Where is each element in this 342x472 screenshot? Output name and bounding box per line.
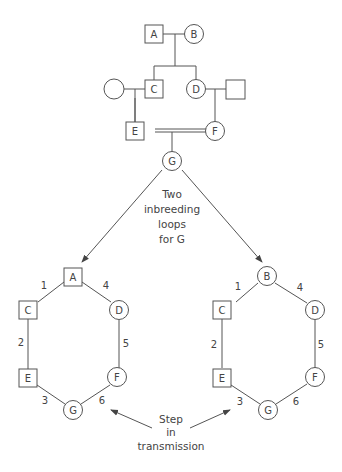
individual-c: C bbox=[145, 80, 163, 98]
svg-text:loops: loops bbox=[158, 218, 186, 230]
arrow-to-right-loop bbox=[182, 170, 262, 262]
svg-text:A: A bbox=[151, 29, 158, 40]
left-step-2: 2 bbox=[18, 337, 24, 348]
right-step-5: 5 bbox=[318, 339, 324, 350]
svg-text:D: D bbox=[115, 305, 123, 316]
left-node-g: G bbox=[64, 401, 83, 420]
svg-text:E: E bbox=[219, 373, 225, 384]
svg-text:E: E bbox=[25, 373, 31, 384]
right-node-f: F bbox=[306, 368, 325, 387]
pedigree-diagram: A B C D E F G bbox=[0, 0, 342, 472]
left-step-6: 6 bbox=[99, 395, 105, 406]
svg-text:F: F bbox=[114, 372, 120, 383]
right-step-4: 4 bbox=[297, 282, 303, 293]
individual-d-spouse bbox=[226, 80, 245, 99]
right-step-2: 2 bbox=[211, 339, 217, 350]
individual-b: B bbox=[185, 25, 204, 44]
svg-text:F: F bbox=[212, 126, 218, 137]
svg-text:inbreeding: inbreeding bbox=[144, 203, 200, 215]
left-node-f: F bbox=[108, 368, 127, 387]
left-step-1: 1 bbox=[41, 280, 47, 291]
arrow-to-left-loop bbox=[82, 170, 162, 262]
loop-right: B C D E F G 1 2 3 4 5 6 bbox=[211, 267, 325, 420]
svg-text:D: D bbox=[192, 84, 200, 95]
individual-a: A bbox=[145, 25, 163, 43]
left-step-3: 3 bbox=[42, 395, 48, 406]
svg-text:B: B bbox=[264, 271, 271, 282]
right-step-1: 1 bbox=[235, 281, 241, 292]
right-step-6: 6 bbox=[293, 396, 299, 407]
arrow-step-right bbox=[190, 410, 230, 428]
svg-text:transmission: transmission bbox=[137, 440, 204, 452]
svg-text:G: G bbox=[168, 156, 176, 167]
svg-text:F: F bbox=[312, 372, 318, 383]
svg-text:Step: Step bbox=[159, 413, 183, 425]
left-node-c: C bbox=[19, 301, 37, 319]
left-node-e: E bbox=[19, 369, 37, 387]
label-two-inbreeding-loops: Two inbreeding loops for G bbox=[144, 188, 200, 245]
svg-text:in: in bbox=[166, 426, 176, 438]
svg-text:B: B bbox=[191, 29, 198, 40]
svg-text:Two: Two bbox=[161, 188, 182, 200]
svg-text:E: E bbox=[132, 126, 138, 137]
right-step-3: 3 bbox=[237, 396, 243, 407]
right-node-g: G bbox=[259, 401, 278, 420]
loop-left: A C D E F G 1 2 3 4 5 6 bbox=[18, 268, 129, 420]
svg-text:C: C bbox=[219, 305, 226, 316]
individual-f: F bbox=[206, 122, 225, 141]
svg-text:C: C bbox=[25, 305, 32, 316]
svg-text:for G: for G bbox=[159, 233, 185, 245]
right-node-c: C bbox=[213, 301, 231, 319]
arrow-step-left bbox=[111, 410, 152, 428]
svg-text:G: G bbox=[69, 405, 77, 416]
pedigree-top: A B C D E F G bbox=[104, 25, 245, 171]
left-step-4: 4 bbox=[103, 280, 109, 291]
right-node-e: E bbox=[213, 369, 231, 387]
svg-text:G: G bbox=[264, 405, 272, 416]
left-step-5: 5 bbox=[123, 338, 129, 349]
left-node-d: D bbox=[110, 301, 129, 320]
individual-g: G bbox=[163, 152, 182, 171]
individual-d: D bbox=[187, 80, 206, 99]
right-node-b: B bbox=[258, 267, 277, 286]
right-node-d: D bbox=[306, 301, 325, 320]
left-node-a: A bbox=[64, 268, 82, 286]
individual-c-spouse bbox=[104, 79, 124, 99]
label-step-in-transmission: Step in transmission bbox=[137, 413, 204, 452]
svg-text:A: A bbox=[70, 272, 77, 283]
svg-text:C: C bbox=[151, 84, 158, 95]
individual-e: E bbox=[126, 98, 144, 140]
svg-text:D: D bbox=[311, 305, 319, 316]
